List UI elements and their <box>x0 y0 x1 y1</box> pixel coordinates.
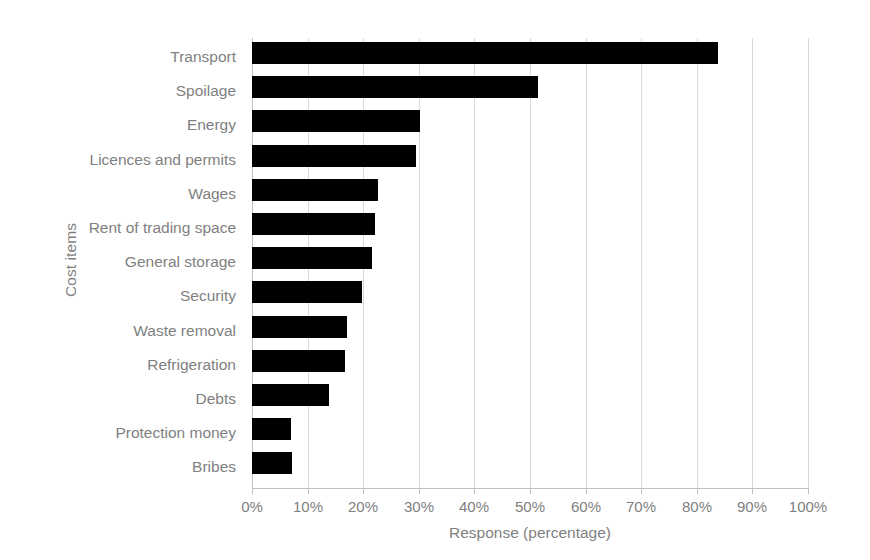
bar <box>252 110 420 132</box>
x-axis-tick-label: 60% <box>571 496 601 518</box>
x-axis-tick <box>363 489 364 494</box>
y-axis-tick-labels: TransportSpoilageEnergyLicences and perm… <box>80 42 244 486</box>
x-axis-tick-label: 40% <box>459 496 489 518</box>
y-axis-tick-label: Licences and permits <box>72 149 236 171</box>
x-axis-tick-label: 100% <box>789 496 827 518</box>
bar <box>252 42 718 64</box>
bar-chart: Cost items TransportSpoilageEnergyLicenc… <box>0 0 870 560</box>
x-axis-tick <box>252 489 253 494</box>
bar <box>252 418 291 440</box>
x-axis-title: Response (percentage) <box>252 521 808 545</box>
bar <box>252 384 329 406</box>
bar <box>252 179 378 201</box>
y-axis-tick-label: Transport <box>72 46 236 68</box>
x-axis-tick-label: 20% <box>348 496 378 518</box>
y-axis-tick-label: Refrigeration <box>72 354 236 376</box>
bar <box>252 452 292 474</box>
bar <box>252 350 345 372</box>
y-axis-tick-label: Debts <box>72 388 236 410</box>
x-axis-tick-labels: 0%10%20%30%40%50%60%70%80%90%100% <box>252 496 808 520</box>
x-axis-tick-label: 90% <box>737 496 767 518</box>
x-axis-tick-label: 70% <box>626 496 656 518</box>
x-axis-tick-label: 10% <box>293 496 323 518</box>
x-axis-tick <box>752 489 753 494</box>
y-axis-tick-label: Bribes <box>72 456 236 478</box>
x-axis-tick <box>808 489 809 494</box>
x-axis-tick-label: 30% <box>404 496 434 518</box>
bar <box>252 76 538 98</box>
x-axis-tick <box>419 489 420 494</box>
x-axis-tick <box>697 489 698 494</box>
x-axis-tick <box>530 489 531 494</box>
y-axis-tick-label: Wages <box>72 183 236 205</box>
bar <box>252 213 375 235</box>
y-axis-tick-label: General storage <box>72 251 236 273</box>
y-axis-tick-label: Energy <box>72 114 236 136</box>
x-axis-tick-label: 0% <box>241 496 263 518</box>
bar <box>252 145 416 167</box>
x-axis-tick-label: 50% <box>515 496 545 518</box>
bar-series <box>252 38 808 488</box>
x-axis-tick <box>308 489 309 494</box>
x-axis-tick <box>641 489 642 494</box>
bar <box>252 281 362 303</box>
plot-area <box>252 38 808 488</box>
y-axis-tick-label: Waste removal <box>72 320 236 342</box>
gridline-100 <box>808 38 809 488</box>
bar <box>252 316 347 338</box>
y-axis-tick-label: Rent of trading space <box>72 217 236 239</box>
x-axis-tick <box>474 489 475 494</box>
bar <box>252 247 372 269</box>
y-axis-tick-label: Security <box>72 285 236 307</box>
y-axis-tick-label: Spoilage <box>72 80 236 102</box>
x-axis-tick-label: 80% <box>682 496 712 518</box>
y-axis-tick-label: Protection money <box>72 422 236 444</box>
x-axis-tick <box>586 489 587 494</box>
